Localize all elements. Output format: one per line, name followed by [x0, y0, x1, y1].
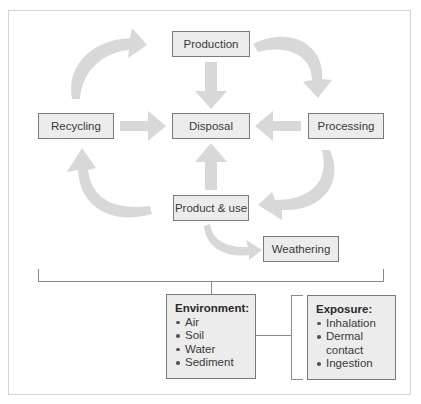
list-item: Air [175, 316, 247, 330]
node-recycling: Recycling [38, 113, 114, 139]
exposure-bracket-top [291, 295, 303, 296]
environment-box: Environment: Air Soil Water Sediment [166, 294, 256, 379]
node-label: Production [184, 38, 239, 50]
node-label: Disposal [189, 120, 233, 132]
node-weathering: Weathering [263, 236, 339, 262]
exposure-bracket [291, 295, 292, 380]
curved-arrow-icon [258, 150, 334, 220]
exposure-title: Exposure: [316, 303, 387, 317]
bracket-stem [211, 281, 212, 294]
node-label: Weathering [272, 243, 331, 255]
arrow-up-icon [195, 143, 227, 190]
arrow-right-icon [120, 111, 166, 141]
arrow-left-icon [255, 111, 301, 141]
node-production: Production [172, 31, 250, 57]
list-item: Inhalation [316, 317, 387, 331]
list-item: Soil [175, 329, 247, 343]
node-label: Recycling [51, 120, 101, 132]
connector-line [256, 335, 291, 336]
exposure-box: Exposure: Inhalation Dermal contact Inge… [307, 295, 396, 380]
node-label: Product & use [175, 202, 247, 214]
curved-arrow-icon [253, 37, 332, 98]
curved-arrow-icon [204, 224, 262, 260]
curved-arrow-icon [71, 28, 147, 99]
environment-title: Environment: [175, 302, 247, 316]
list-item: Ingestion [316, 357, 387, 371]
arrow-down-icon [195, 62, 227, 109]
exposure-list: Inhalation Dermal contact Ingestion [316, 317, 387, 371]
node-product-use: Product & use [173, 195, 249, 221]
node-processing: Processing [308, 113, 384, 139]
exposure-bracket-bottom [291, 379, 303, 380]
curved-arrow-icon [67, 148, 152, 217]
list-item: Dermal contact [316, 330, 376, 357]
node-label: Processing [318, 120, 375, 132]
list-item: Water [175, 343, 247, 357]
environment-list: Air Soil Water Sediment [175, 316, 247, 370]
node-disposal: Disposal [172, 113, 250, 139]
list-item: Sediment [175, 356, 247, 370]
